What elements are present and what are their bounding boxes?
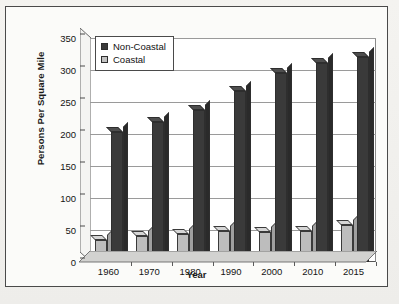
legend-swatch-coastal-icon xyxy=(101,56,108,63)
bar-side-face xyxy=(123,122,128,257)
bar-non-coastal-1960 xyxy=(111,132,123,262)
legend-label-non-coastal: Non-Coastal xyxy=(113,41,166,52)
bar-front-face xyxy=(152,122,164,262)
y-axis-tick-mark xyxy=(80,130,85,131)
bar-side-face xyxy=(205,100,210,257)
y-axis-tick-mark xyxy=(80,226,85,227)
x-axis-tick-mark xyxy=(294,262,295,266)
x-axis-tick-mark xyxy=(253,262,254,266)
y-axis-tick-mark xyxy=(80,34,85,35)
bar-side-face xyxy=(287,63,292,257)
gridline xyxy=(90,198,376,199)
gridline xyxy=(90,166,376,167)
legend-item-non-coastal: Non-Coastal xyxy=(101,40,166,53)
bar-non-coastal-2000 xyxy=(275,73,287,262)
legend-item-coastal: Coastal xyxy=(101,53,166,66)
x-axis-tick-mark xyxy=(131,262,132,266)
bar-side-face xyxy=(246,81,251,257)
x-axis-tick-label: 2015 xyxy=(343,266,364,277)
x-axis-tick-mark xyxy=(335,262,336,266)
y-axis-tick-mark xyxy=(80,258,85,259)
gridline xyxy=(90,134,376,135)
bar-non-coastal-2015 xyxy=(357,57,369,262)
bar-front-face xyxy=(316,63,328,262)
chart-frame: Persons Per Square Mile Non-Coastal Coas… xyxy=(5,6,388,287)
x-axis-tick-mark xyxy=(172,262,173,266)
y-axis-tick-label: 0 xyxy=(38,257,76,268)
bar-side-face xyxy=(369,47,374,257)
chart-legend: Non-Coastal Coastal xyxy=(95,36,174,71)
gridline xyxy=(90,102,376,103)
bar-front-face xyxy=(234,91,246,262)
legend-swatch-non-coastal-icon xyxy=(101,43,108,50)
y-axis-tick-label: 150 xyxy=(38,161,76,172)
bar-front-face xyxy=(111,132,123,262)
x-axis-tick-mark xyxy=(376,262,377,266)
bar-non-coastal-1990 xyxy=(234,91,246,262)
y-axis-tick-mark xyxy=(80,66,85,67)
y-axis-tick-label: 50 xyxy=(38,225,76,236)
x-axis-tick-label: 1990 xyxy=(220,266,241,277)
x-axis-tick-label: 2000 xyxy=(261,266,282,277)
x-axis-tick-mark xyxy=(213,262,214,266)
y-axis-tick-label: 200 xyxy=(38,129,76,140)
bar-front-face xyxy=(193,110,205,262)
bar-non-coastal-1970 xyxy=(152,122,164,262)
bar-non-coastal-1980 xyxy=(193,110,205,262)
y-axis-tick-label: 300 xyxy=(38,65,76,76)
x-axis-tick-label: 1980 xyxy=(180,266,201,277)
y-axis-tick-label: 350 xyxy=(38,33,76,44)
bar-non-coastal-2010 xyxy=(316,63,328,262)
x-axis-tick-label: 2010 xyxy=(302,266,323,277)
y-axis-tick-mark xyxy=(80,162,85,163)
y-axis-tick-label: 250 xyxy=(38,97,76,108)
bar-front-face xyxy=(357,57,369,262)
y-axis-tick-mark xyxy=(80,98,85,99)
bar-side-face xyxy=(328,53,333,257)
legend-label-coastal: Coastal xyxy=(113,54,145,65)
bar-front-face xyxy=(275,73,287,262)
bar-side-face xyxy=(164,112,169,257)
x-axis-tick-label: 1970 xyxy=(139,266,160,277)
y-axis-tick-label: 100 xyxy=(38,193,76,204)
x-axis-tick-label: 1960 xyxy=(98,266,119,277)
plot-area xyxy=(90,38,376,262)
y-axis-tick-mark xyxy=(80,194,85,195)
